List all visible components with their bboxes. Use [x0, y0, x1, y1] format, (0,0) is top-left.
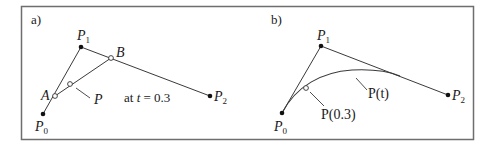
leader-line-p03 — [310, 92, 324, 106]
label-p0: P0 — [273, 119, 288, 136]
point-p0 — [280, 111, 285, 116]
label-p0: P0 — [34, 119, 49, 136]
panel-b: b) P0 P1 P2 P(0.3) P(t) — [271, 12, 465, 136]
segment-a-b — [55, 58, 111, 96]
point-p1 — [319, 44, 324, 49]
bezier-figure: a) P0 P1 P2 A B P at t = 0.3 — [0, 0, 492, 147]
segment-p1-p2 — [81, 47, 210, 96]
panel-a-label: a) — [31, 12, 41, 27]
point-a — [53, 94, 58, 99]
point-p2 — [446, 93, 451, 98]
label-p1: P1 — [316, 28, 330, 45]
bezier-diagram: a) P0 P1 P2 A B P at t = 0.3 — [0, 0, 492, 147]
point-p2 — [208, 94, 213, 99]
label-p2: P2 — [213, 89, 227, 106]
point-b — [109, 56, 114, 61]
point-p — [68, 82, 73, 87]
label-p2: P2 — [451, 88, 465, 105]
label-p03: P(0.3) — [321, 107, 356, 123]
label-pt: P(t) — [368, 86, 389, 102]
label-p: P — [93, 92, 103, 107]
point-p1 — [79, 45, 84, 50]
panel-a: a) P0 P1 P2 A B P at t = 0.3 — [31, 12, 227, 136]
panel-b-label: b) — [271, 12, 282, 27]
leader-line-pt — [356, 78, 367, 90]
point-p0 — [41, 112, 46, 117]
point-p03 — [304, 86, 309, 91]
annotation-t-value: at t = 0.3 — [124, 90, 170, 105]
label-b: B — [116, 45, 125, 60]
segment-p0-p1 — [43, 47, 81, 114]
label-a: A — [40, 88, 50, 103]
leader-line-p — [76, 88, 90, 98]
label-p1: P1 — [76, 28, 90, 45]
